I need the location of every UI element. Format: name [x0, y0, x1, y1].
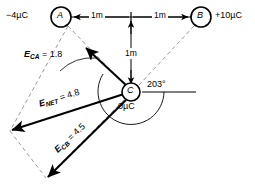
charge-label-c: 0µC	[118, 102, 135, 111]
dashed-line-b-to-c	[139, 26, 194, 85]
vector-eca	[86, 48, 127, 86]
angle-label: 203°	[147, 80, 166, 89]
vector-subscript-eca: CA	[30, 53, 39, 60]
vector-ecb	[48, 100, 126, 177]
vector-label-eca: ECA = 1.8	[24, 50, 62, 59]
node-label-a: A	[57, 11, 63, 20]
vector-value-eca: = 1.8	[42, 49, 62, 59]
dimension-label-mid-c: 1m	[123, 48, 139, 59]
node-label-c: C	[127, 86, 134, 95]
dimension-label-a-mid: 1m	[89, 11, 105, 20]
charge-label-b: +10µC	[215, 11, 242, 20]
diagram-canvas: −4µC +10µC 0µC A B C 1m 1m 1m 203° ECA =…	[0, 0, 255, 186]
dimension-label-mid-b: 1m	[152, 11, 168, 20]
charge-label-a: −4µC	[6, 11, 28, 20]
node-label-b: B	[197, 11, 203, 20]
dashed-parallelogram-side	[10, 131, 46, 178]
eca-leader-arc	[60, 58, 96, 71]
